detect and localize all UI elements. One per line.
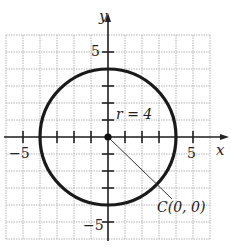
y-axis-label: y <box>98 7 108 25</box>
circle-graph: y x −5 5 5 −5 r = 4 C(0, 0) <box>0 0 231 250</box>
center-point <box>104 133 111 140</box>
center-label: C(0, 0) <box>157 199 205 215</box>
radius-label: r = 4 <box>116 106 152 122</box>
x-axis-label: x <box>216 141 225 159</box>
x-tick-label-neg5: −5 <box>9 145 30 161</box>
center-leader-line <box>108 137 172 199</box>
y-tick-label-neg5: −5 <box>83 217 104 233</box>
x-tick-label-pos5: 5 <box>187 145 196 161</box>
y-tick-label-pos5: 5 <box>91 43 100 59</box>
